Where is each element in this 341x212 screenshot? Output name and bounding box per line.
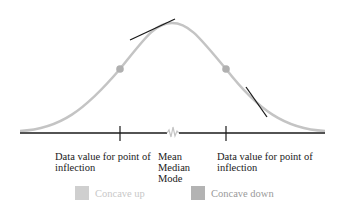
concave-down-label: Concave down <box>211 188 274 199</box>
right-inflection-point <box>222 65 230 73</box>
right-inflection-label-line2: inflection <box>217 162 313 173</box>
mean-label: Mean <box>158 151 190 162</box>
left-inflection-point <box>116 65 124 73</box>
tangent-line-concave-up <box>246 87 267 117</box>
concave-up-swatch-icon <box>75 186 89 200</box>
concave-down-swatch-icon <box>191 186 205 200</box>
legend-concave-down: Concave down <box>191 186 274 200</box>
axis-break-icon <box>167 127 179 137</box>
tangent-line-concave-down <box>130 19 175 40</box>
left-inflection-label-line1: Data value for point of <box>55 151 151 162</box>
bell-curve <box>20 23 325 131</box>
left-inflection-label: Data value for point of inflection <box>55 151 151 173</box>
right-inflection-label: Data value for point of inflection <box>217 151 313 173</box>
mode-label: Mode <box>158 173 190 184</box>
median-label: Median <box>158 162 190 173</box>
center-label: Mean Median Mode <box>158 151 190 184</box>
left-inflection-label-line2: inflection <box>55 162 151 173</box>
concave-up-label: Concave up <box>95 188 145 199</box>
right-inflection-label-line1: Data value for point of <box>217 151 313 162</box>
legend-concave-up: Concave up <box>75 186 145 200</box>
